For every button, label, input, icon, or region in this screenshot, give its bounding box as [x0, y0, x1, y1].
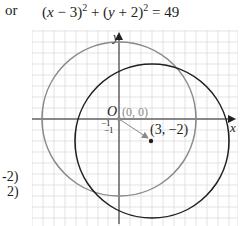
- grid: [32, 30, 238, 226]
- translation-arrow: [119, 119, 148, 138]
- coordinate-graph: y x O (0, 0) (3, −2) −1 −1: [0, 0, 245, 226]
- y-axis-label: y: [111, 29, 119, 44]
- y-tick-label: −1: [104, 125, 114, 135]
- origin-label: O: [107, 104, 117, 119]
- origin-coordinate-label: (0, 0): [122, 105, 148, 119]
- center-coordinate-label: (3, −2): [150, 122, 189, 138]
- origin-point: [117, 117, 121, 121]
- x-axis-label: x: [229, 120, 236, 135]
- center-point: [149, 139, 153, 143]
